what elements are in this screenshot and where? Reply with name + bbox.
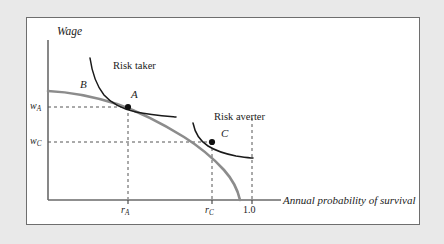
point-label-c: C	[221, 128, 228, 139]
y-tick-wc-main: w	[30, 135, 37, 146]
y-tick-wa-main: w	[30, 100, 37, 111]
tangency-points	[125, 104, 215, 145]
y-tick-label-wc: wC	[30, 136, 41, 148]
risk-averter-label: Risk averter	[214, 112, 265, 123]
y-tick-wc-sub: C	[37, 140, 42, 148]
curve-label-b: B	[80, 79, 87, 90]
x-tick-ra-sub: A	[125, 209, 129, 217]
point-label-a: A	[131, 89, 138, 100]
wage-offer-curve	[48, 91, 240, 200]
point-A-marker	[125, 104, 131, 110]
x-axis-label: Annual probability of survival	[283, 195, 416, 206]
risk-taker-label: Risk taker	[113, 61, 156, 72]
figure-root: Wage Annual probability of survival B A …	[0, 0, 444, 244]
y-tick-wa-sub: A	[37, 105, 41, 113]
x-tick-label-one: 1.0	[243, 205, 256, 215]
x-tick-label-ra: rA	[121, 205, 129, 217]
y-axis-label: Wage	[57, 26, 82, 38]
y-tick-label-wa: wA	[30, 101, 41, 113]
x-tick-label-rc: rC	[205, 205, 214, 217]
x-tick-rc-sub: C	[209, 209, 214, 217]
point-C-marker	[209, 139, 215, 145]
